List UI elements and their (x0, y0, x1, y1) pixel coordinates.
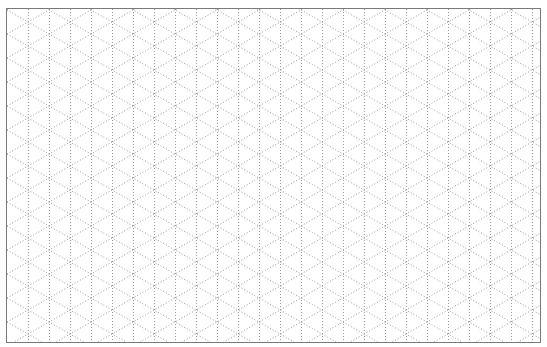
grid-line (7, 88, 541, 343)
grid-line (7, 298, 541, 343)
grid-line (7, 58, 541, 343)
grid-line (7, 9, 541, 28)
page (0, 0, 547, 347)
grid-line (7, 9, 541, 268)
grid-line (7, 136, 541, 343)
isometric-grid (7, 9, 541, 343)
grid-line (7, 9, 541, 100)
grid-line (7, 160, 541, 343)
grid-line (7, 250, 541, 343)
grid-line (7, 9, 541, 172)
grid-line (7, 274, 541, 343)
grid-line (7, 9, 541, 124)
grid-line (7, 9, 541, 52)
grid-line (7, 16, 541, 322)
grid-line (7, 64, 541, 343)
grid-line (7, 9, 541, 82)
grid-line (7, 202, 541, 343)
grid-line (7, 9, 541, 274)
grid-line (7, 9, 541, 196)
grid-line (7, 10, 541, 316)
grid-line (7, 9, 541, 178)
grid-line (7, 9, 541, 154)
grid-line (7, 280, 541, 343)
grid-line (7, 9, 541, 220)
grid-line (7, 9, 541, 34)
grid-line (7, 9, 541, 244)
grid-line (7, 106, 541, 343)
grid-line (7, 9, 541, 58)
grid-line (7, 328, 541, 343)
grid-line (7, 9, 541, 292)
grid-line (7, 112, 541, 343)
grid-line (7, 184, 541, 343)
grid-line (7, 208, 541, 343)
grid-line (7, 9, 541, 76)
grid-line (7, 9, 541, 226)
grid-line (7, 34, 541, 340)
isometric-grid-canvas[interactable] (6, 8, 541, 343)
grid-line (7, 9, 541, 130)
grid-line (7, 226, 541, 343)
grid-line (7, 130, 541, 343)
grid-line (7, 40, 541, 343)
grid-line (7, 82, 541, 343)
grid-line (7, 322, 541, 343)
grid-line (7, 9, 541, 10)
grid-line (7, 9, 541, 106)
grid-line (7, 178, 541, 343)
grid-line (7, 9, 541, 250)
grid-line (7, 304, 541, 343)
